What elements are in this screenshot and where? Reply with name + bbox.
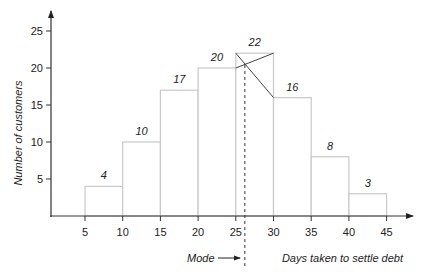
x-tick-label: 45 [380,226,392,238]
bar-value-label: 8 [327,140,334,152]
y-tick-label: 15 [31,99,43,111]
histogram-chart: 4101720221683 510152025 5101520253035404… [0,0,426,274]
bar-value-label: 3 [365,177,372,189]
x-tick-label: 15 [154,226,166,238]
x-tick-label: 10 [117,226,129,238]
histogram-bar [85,186,123,216]
x-tick-label: 20 [192,226,204,238]
histogram-bar [123,142,161,216]
bar-value-label: 17 [173,73,186,85]
x-tick-label: 30 [267,226,279,238]
histogram-bar [236,53,274,216]
x-tick-label: 5 [82,226,88,238]
x-tick-label: 25 [230,226,242,238]
y-tick-label: 5 [37,173,43,185]
y-tick-label: 25 [31,25,43,37]
bar-value-label: 16 [286,81,299,93]
histogram-bars [85,53,387,216]
histogram-bar [198,68,236,216]
histogram-bar [274,98,312,216]
bar-value-label: 22 [248,36,261,48]
y-tick-label: 20 [31,62,43,74]
y-axis-title: Number of customers [12,80,24,186]
histogram-bar [311,157,349,216]
bar-value-label: 10 [135,125,148,137]
bar-value-label: 20 [210,51,224,63]
histogram-bar [349,194,387,216]
x-axis-ticks: 51015202530354045 [82,216,393,238]
y-tick-label: 10 [31,136,43,148]
mode-label: Mode [187,252,215,264]
x-axis-title: Days taken to settle debt [282,252,404,264]
histogram-bar [160,90,198,216]
y-axis-ticks: 510152025 [31,25,51,185]
x-tick-label: 40 [343,226,355,238]
x-tick-label: 35 [305,226,317,238]
bar-value-label: 4 [101,169,107,181]
